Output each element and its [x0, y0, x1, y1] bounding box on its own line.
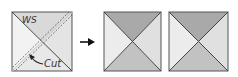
hourglass-unit-2	[169, 12, 228, 71]
cut-label: Cut	[44, 58, 62, 69]
quilt-diagram: WS Cut	[0, 0, 238, 77]
square-before-cut: WS Cut	[12, 12, 72, 71]
ws-label: WS	[22, 15, 37, 25]
arrow-icon	[80, 38, 95, 46]
hourglass-unit-1	[104, 12, 161, 71]
